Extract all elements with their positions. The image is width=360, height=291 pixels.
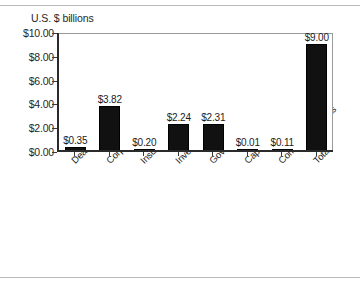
bar-value-label: $0.11	[271, 137, 294, 148]
bar-value-label: $2.24	[167, 112, 191, 123]
bar-value-label: $2.31	[201, 112, 225, 123]
bar	[306, 44, 327, 151]
bar-slot: $9.00	[306, 34, 327, 151]
y-axis-tick-label: $8.00	[29, 51, 54, 63]
bar	[168, 124, 189, 151]
y-axis-title: U.S. $ billions	[31, 12, 94, 24]
y-axis-tick-label: $6.00	[29, 75, 54, 87]
bar	[134, 149, 155, 151]
bar	[65, 147, 86, 151]
bar	[99, 106, 120, 151]
bar	[237, 149, 258, 151]
plot-area: $0.35$3.82$0.20$2.24$2.31$0.01$0.11$9.00	[57, 33, 333, 152]
bar-value-label: $3.82	[98, 94, 122, 105]
bar-slot: $2.24	[168, 34, 189, 151]
bar-series: $0.35$3.82$0.20$2.24$2.31$0.01$0.11$9.00	[58, 34, 332, 151]
bar-slot: $0.11	[272, 34, 293, 151]
bar-value-label: $9.00	[305, 32, 329, 43]
bar-slot: $0.01	[237, 34, 258, 151]
y-axis-tick-label: $4.00	[29, 98, 54, 110]
bar	[203, 124, 224, 151]
y-axis-tick-label: $0.00	[29, 146, 54, 158]
bar-value-label: $0.20	[132, 137, 156, 148]
bar-chart-figure: U.S. $ billions $0.00$2.00$4.00$6.00$8.0…	[0, 0, 360, 291]
y-axis-tick-label: $2.00	[29, 122, 54, 134]
bar-slot: $0.35	[65, 34, 86, 151]
bar-slot: $3.82	[99, 34, 120, 151]
bar	[272, 149, 293, 151]
y-axis-tick-mark	[52, 152, 57, 153]
bar-value-label: $0.35	[63, 135, 87, 146]
bar-value-label: $0.01	[236, 137, 260, 148]
y-axis-tick-label: $10.00	[23, 27, 54, 39]
bar-slot: $0.20	[134, 34, 155, 151]
bar-slot: $2.31	[203, 34, 224, 151]
